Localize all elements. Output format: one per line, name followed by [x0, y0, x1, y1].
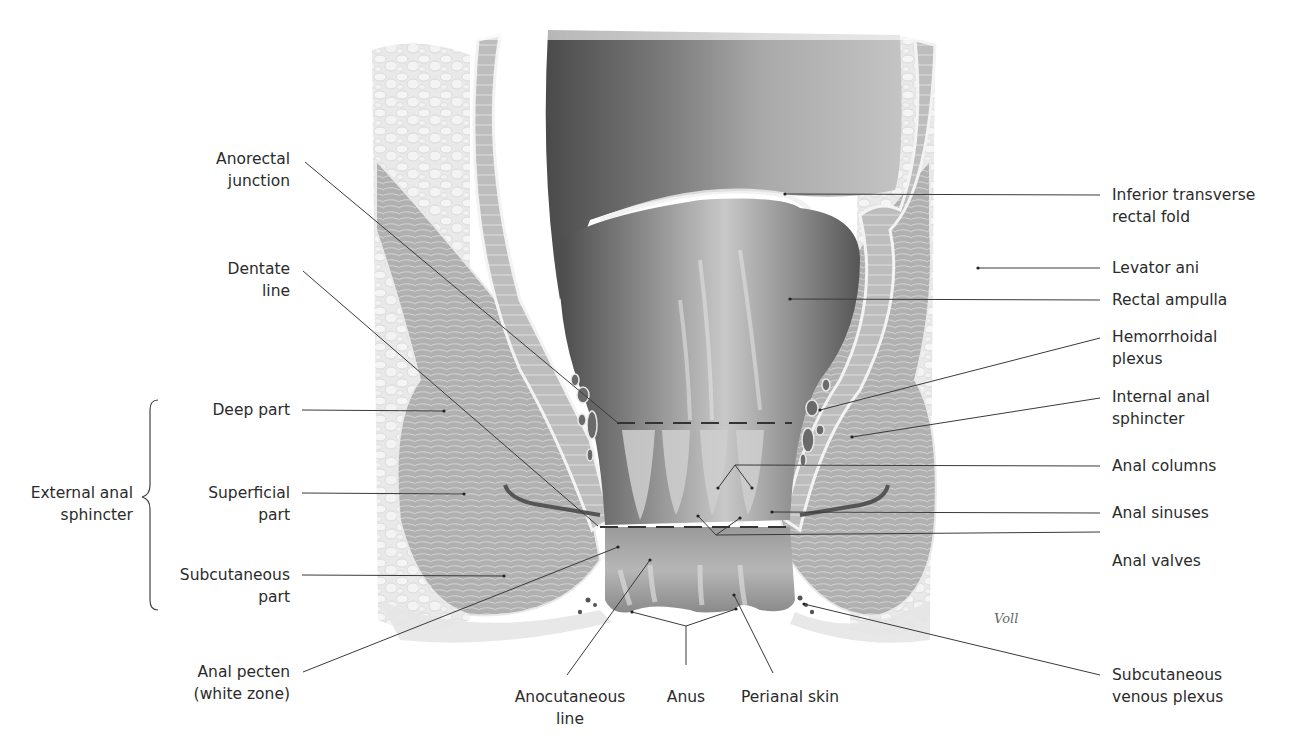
- label-line: External anal: [31, 482, 133, 504]
- label-perianal-skin: Perianal skin: [730, 686, 850, 708]
- label-line: Anal valves: [1112, 550, 1201, 572]
- label-line: (white zone): [194, 683, 290, 705]
- label-line: junction: [216, 170, 290, 192]
- label-line: venous plexus: [1112, 686, 1223, 708]
- brace-icon: [142, 400, 158, 610]
- label-subcutaneous-part: Subcutaneous part: [180, 564, 290, 608]
- label-line: Superficial: [208, 482, 290, 504]
- label-anorectal-junction: Anorectal junction: [216, 148, 290, 192]
- label-hemorrhoidal-plexus: Hemorrhoidal plexus: [1112, 326, 1217, 370]
- label-line: rectal fold: [1112, 206, 1255, 228]
- label-line: Anal pecten: [194, 661, 290, 683]
- label-line: part: [180, 586, 290, 608]
- label-superficial-part: Superficial part: [208, 482, 290, 526]
- label-line: line: [228, 280, 290, 302]
- label-line: plexus: [1112, 348, 1217, 370]
- label-line: Anal columns: [1112, 455, 1216, 477]
- label-line: Deep part: [212, 399, 290, 421]
- label-anal-sinuses: Anal sinuses: [1112, 502, 1209, 524]
- label-line: Hemorrhoidal: [1112, 326, 1217, 348]
- label-line: sphincter: [31, 504, 133, 526]
- label-line: Anorectal: [216, 148, 290, 170]
- label-line: Subcutaneous: [180, 564, 290, 586]
- label-deep-part: Deep part: [212, 399, 290, 421]
- label-line: Inferior transverse: [1112, 184, 1255, 206]
- label-levator-ani: Levator ani: [1112, 257, 1199, 279]
- label-line: Rectal ampulla: [1112, 289, 1227, 311]
- label-line: Levator ani: [1112, 257, 1199, 279]
- label-anus: Anus: [656, 686, 716, 708]
- label-line: Internal anal: [1112, 386, 1210, 408]
- label-anal-columns: Anal columns: [1112, 455, 1216, 477]
- label-line: line: [500, 708, 640, 730]
- label-dentate-line: Dentate line: [228, 258, 290, 302]
- label-anocutaneous-line: Anocutaneous line: [500, 686, 640, 730]
- artist-signature: Voll: [994, 611, 1018, 626]
- label-anal-valves: Anal valves: [1112, 550, 1201, 572]
- label-inferior-transverse-rectal-fold: Inferior transverse rectal fold: [1112, 184, 1255, 228]
- label-line: sphincter: [1112, 408, 1210, 430]
- label-line: Subcutaneous: [1112, 664, 1223, 686]
- label-external-anal-sphincter: External anal sphincter: [31, 482, 133, 526]
- label-line: Anus: [656, 686, 716, 708]
- label-line: Anal sinuses: [1112, 502, 1209, 524]
- label-anal-pecten: Anal pecten (white zone): [194, 661, 290, 705]
- label-line: Dentate: [228, 258, 290, 280]
- label-line: Anocutaneous: [500, 686, 640, 708]
- label-line: Perianal skin: [730, 686, 850, 708]
- rectum-anal-canal-illustration: [0, 0, 1296, 743]
- label-rectal-ampulla: Rectal ampulla: [1112, 289, 1227, 311]
- label-internal-anal-sphincter: Internal anal sphincter: [1112, 386, 1210, 430]
- label-line: part: [208, 504, 290, 526]
- label-subcutaneous-venous-plexus: Subcutaneous venous plexus: [1112, 664, 1223, 708]
